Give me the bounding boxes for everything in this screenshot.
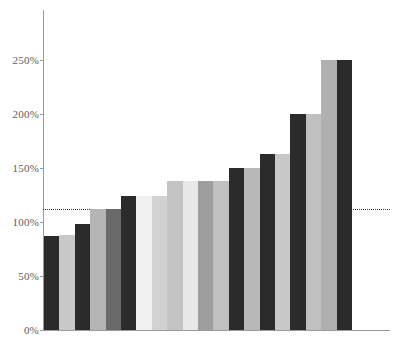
bar — [167, 181, 182, 330]
bar — [306, 114, 321, 330]
y-axis-tick-mark — [40, 330, 44, 331]
y-axis-tick-label: 250% — [13, 54, 39, 66]
bar — [183, 181, 198, 330]
y-axis-tick-label: 100% — [13, 216, 39, 228]
y-axis-tick-label: 200% — [13, 108, 39, 120]
bar — [136, 196, 151, 330]
plot-area — [44, 10, 352, 330]
bar — [260, 154, 275, 330]
bar — [229, 168, 244, 330]
x-axis-line — [43, 330, 390, 331]
y-axis-tick-label: 50% — [18, 270, 39, 282]
bar — [337, 60, 352, 330]
y-axis-tick-label: 150% — [13, 162, 39, 174]
bar — [244, 168, 259, 330]
bar — [321, 60, 336, 330]
bar — [121, 196, 136, 330]
bar — [59, 235, 74, 330]
bar — [75, 224, 90, 330]
bar-chart: 0%50%100%150%200%250% — [0, 0, 395, 346]
bar — [275, 154, 290, 330]
bar — [198, 181, 213, 330]
bar — [44, 236, 59, 330]
bar — [90, 209, 105, 330]
bar — [106, 209, 121, 330]
bar — [290, 114, 305, 330]
y-axis-tick-label: 0% — [24, 324, 39, 336]
bar — [152, 196, 167, 330]
bar — [213, 181, 228, 330]
